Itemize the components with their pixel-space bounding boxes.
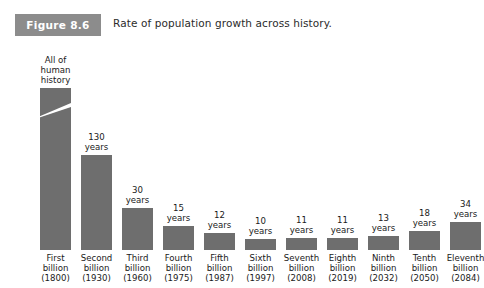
bar-category-label-line: (1960): [123, 273, 152, 283]
bar-rect[interactable]: [450, 222, 481, 250]
figure-caption: Rate of population growth across history…: [113, 17, 332, 29]
bar-category-label: Fourthbillion(1975): [164, 253, 193, 283]
bar-rect[interactable]: [204, 233, 235, 250]
bar-value-label-line: years: [290, 225, 314, 235]
bar-group: 30yearsThirdbillion(1960): [122, 208, 153, 250]
bar-value-label-line: 30: [126, 185, 150, 195]
bar-category-label-line: (2019): [328, 273, 357, 283]
bar-value-label-line: 34: [454, 199, 478, 209]
bar-group: 11yearsEighthbillion(2019): [327, 238, 358, 250]
bar-category-label-line: billion: [164, 263, 193, 273]
bar-group: 34yearsEleventhbillion(2084): [450, 222, 481, 250]
bar-value-label-line: years: [167, 213, 191, 223]
bar-rect[interactable]: [286, 238, 317, 250]
bar-category-label-line: billion: [41, 263, 70, 273]
bar-category-label: Eighthbillion(2019): [328, 253, 357, 283]
bar-category-label-line: (1930): [81, 273, 113, 283]
bar-category-label-line: Ninth: [369, 253, 398, 263]
bar-category-label-line: Tenth: [410, 253, 439, 263]
bar-group: 15yearsFourthbillion(1975): [163, 226, 194, 250]
bar-category-label-line: Second: [81, 253, 113, 263]
bar-category-label-line: First: [41, 253, 70, 263]
bar-category-label-line: billion: [246, 263, 275, 273]
bar-rect[interactable]: [245, 239, 276, 250]
bar-value-label: 15years: [167, 203, 191, 223]
bar-category-label: Sixthbillion(1997): [246, 253, 275, 283]
bar-value-label-line: years: [454, 209, 478, 219]
bar-value-label-line: 13: [372, 213, 396, 223]
bar-category-label-line: billion: [410, 263, 439, 273]
bar-category-label-line: billion: [205, 263, 234, 273]
bar-rect[interactable]: [40, 88, 71, 250]
bar-category-label: Ninthbillion(2032): [369, 253, 398, 283]
bar-value-label-line: 11: [331, 215, 355, 225]
bar-category-label-line: billion: [328, 263, 357, 273]
bar-value-label: 34years: [454, 199, 478, 219]
bar-category-label: Fifthbillion(1987): [205, 253, 234, 283]
bar-rect[interactable]: [122, 208, 153, 250]
bar-chart-plot-area: All ofhumanhistoryFirstbillion(1800)130y…: [0, 44, 482, 288]
bar-category-label-line: (1975): [164, 273, 193, 283]
bar-value-label-line: years: [126, 195, 150, 205]
bar-category-label-line: (2008): [284, 273, 319, 283]
bar-category-label-line: (1997): [246, 273, 275, 283]
bar-value-label: 11years: [290, 215, 314, 235]
bar-value-label: 10years: [249, 216, 273, 236]
bar-value-label-line: human: [41, 65, 71, 75]
bar-category-label-line: Sixth: [246, 253, 275, 263]
bar-group: 13yearsNinthbillion(2032): [368, 236, 399, 250]
bar-category-label: Thirdbillion(1960): [123, 253, 152, 283]
bar-group: 12yearsFifthbillion(1987): [204, 233, 235, 250]
bar-value-label: 130years: [85, 132, 109, 152]
bar-value-label: 13years: [372, 213, 396, 233]
bar-value-label: 30years: [126, 185, 150, 205]
bar-category-label-line: billion: [81, 263, 113, 273]
bar-value-label: 11years: [331, 215, 355, 235]
bar-category-label: Secondbillion(1930): [81, 253, 113, 283]
figure-number-label: Figure 8.6: [26, 19, 89, 31]
bar-value-label-line: 10: [249, 216, 273, 226]
bar-value-label-line: 11: [290, 215, 314, 225]
bar-group: 11yearsSeventhbillion(2008): [286, 238, 317, 250]
bar-group: 10yearsSixthbillion(1997): [245, 239, 276, 250]
bar-value-label-line: 18: [413, 208, 437, 218]
bar-value-label-line: 15: [167, 203, 191, 213]
bar-category-label: Eleventhbillion(2084): [447, 253, 484, 283]
bar-value-label-line: years: [372, 223, 396, 233]
figure-number-badge: Figure 8.6: [15, 14, 101, 36]
bar-rect[interactable]: [368, 236, 399, 250]
bar-value-label: 18years: [413, 208, 437, 228]
bar-value-label-line: All of: [41, 55, 71, 65]
bar-category-label-line: (2084): [447, 273, 484, 283]
bar-value-label-line: years: [413, 218, 437, 228]
bar-group: All ofhumanhistoryFirstbillion(1800): [40, 88, 71, 250]
bar-category-label-line: (2050): [410, 273, 439, 283]
bar-group: 130yearsSecondbillion(1930): [81, 155, 112, 250]
bar-category-label-line: Fourth: [164, 253, 193, 263]
bar-value-label-line: 130: [85, 132, 109, 142]
bar-value-label-line: 12: [208, 210, 232, 220]
bar-category-label-line: Seventh: [284, 253, 319, 263]
bar-category-label-line: billion: [284, 263, 319, 273]
bar-category-label-line: (1800): [41, 273, 70, 283]
bar-category-label-line: Third: [123, 253, 152, 263]
bar-rect[interactable]: [81, 155, 112, 250]
bar-category-label: Seventhbillion(2008): [284, 253, 319, 283]
bar-group: 18yearsTenthbillion(2050): [409, 231, 440, 250]
bar-rect[interactable]: [409, 231, 440, 250]
bar-value-label-line: years: [208, 220, 232, 230]
bar-category-label-line: Fifth: [205, 253, 234, 263]
bar-value-label-line: years: [85, 142, 109, 152]
figure-header: Figure 8.6 Rate of population growth acr…: [0, 0, 482, 44]
bar-value-label-line: years: [331, 225, 355, 235]
bar-value-label-line: years: [249, 226, 273, 236]
bar-rect[interactable]: [163, 226, 194, 250]
bar-value-label-line: history: [41, 75, 71, 85]
bar-rect[interactable]: [327, 238, 358, 250]
bar-category-label-line: (2032): [369, 273, 398, 283]
bar-category-label: Firstbillion(1800): [41, 253, 70, 283]
bar-category-label-line: billion: [123, 263, 152, 273]
bar-value-label: All ofhumanhistory: [41, 55, 71, 85]
bar-category-label-line: Eleventh: [447, 253, 484, 263]
